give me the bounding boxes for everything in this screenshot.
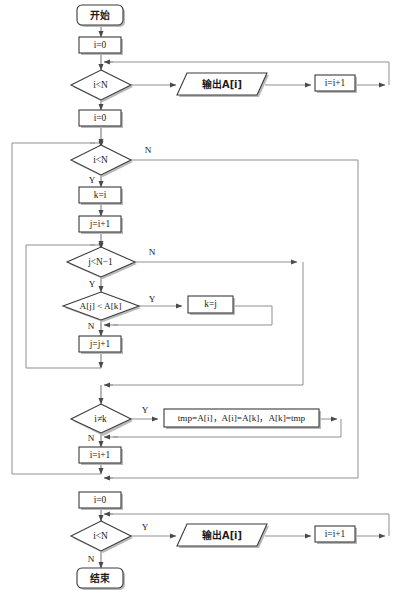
node-init-i-print2[interactable]: i=0	[79, 492, 123, 510]
node-cond-outer-label: i<N	[93, 155, 108, 165]
node-inc-i-print1[interactable]: i=i+1	[315, 75, 357, 93]
node-print1[interactable]: 输出A[i]	[177, 73, 269, 97]
node-cond-outer[interactable]: i<N	[71, 145, 133, 177]
node-inc-i-print2[interactable]: i=i+1	[315, 526, 357, 544]
node-init-i-print1-label: i=0	[94, 40, 107, 50]
branch-label-swap-no: N	[88, 433, 95, 443]
flowchart-canvas: 开始 i=0 i<N 输出A[i] i=i+1	[0, 0, 402, 605]
branch-label-inner-no: N	[149, 247, 156, 257]
node-print1-label: 输出A[i]	[202, 78, 242, 90]
branch-label-print2-no: N	[88, 554, 95, 564]
edge-outer-no-to-print2	[107, 160, 358, 478]
flowchart-svg: 开始 i=0 i<N 输出A[i] i=i+1	[0, 0, 402, 605]
node-set-k-j-label: k=j	[204, 299, 217, 309]
node-set-k-label: k=i	[94, 190, 107, 200]
node-inc-i-print2-label: i=i+1	[325, 529, 346, 539]
node-start[interactable]: 开始	[77, 5, 125, 27]
node-cond-inner[interactable]: j<N−1	[67, 247, 137, 279]
node-set-k[interactable]: k=i	[79, 187, 123, 205]
node-cond-swap-label: i≠k	[94, 414, 107, 424]
node-set-k-j[interactable]: k=j	[188, 296, 235, 315]
node-cond-print1-label: i<N	[93, 80, 108, 90]
branch-label-swap-yes: Y	[142, 405, 149, 415]
node-init-j[interactable]: j=i+1	[79, 216, 123, 234]
branch-label-inner-yes: Y	[89, 279, 96, 289]
node-init-i-print2-label: i=0	[94, 495, 107, 505]
node-inc-i-sort-label: i=i+1	[90, 450, 111, 460]
node-cond-compare-label: A[j] < A[k]	[80, 301, 122, 311]
branch-label-compare-yes: Y	[149, 294, 156, 304]
node-init-j-label: j=i+1	[89, 219, 111, 229]
node-cond-print2[interactable]: i<N	[71, 521, 133, 553]
node-print2[interactable]: 输出A[i]	[177, 524, 269, 548]
branch-label-print2-yes: Y	[142, 522, 149, 532]
node-inc-i-sort[interactable]: i=i+1	[79, 447, 123, 465]
node-swap-label: tmp=A[i]，A[i]=A[k]，A[k]=tmp	[178, 413, 306, 423]
node-init-i-sort-label: i=0	[94, 113, 107, 123]
branch-label-compare-no: N	[88, 321, 95, 331]
branch-label-outer-no: N	[145, 145, 152, 155]
node-cond-swap[interactable]: i≠k	[71, 404, 133, 436]
node-cond-print1[interactable]: i<N	[71, 70, 133, 102]
node-cond-print2-label: i<N	[93, 531, 108, 541]
node-start-label: 开始	[90, 9, 110, 21]
node-init-i-print1[interactable]: i=0	[79, 37, 123, 55]
node-cond-inner-label: j<N−1	[87, 257, 113, 267]
node-inc-j-label: j=j+1	[89, 339, 111, 349]
edge-inner-no-down	[107, 262, 303, 385]
node-inc-i-print1-label: i=i+1	[325, 78, 346, 88]
node-inc-j[interactable]: j=j+1	[79, 336, 123, 354]
node-swap[interactable]: tmp=A[i]，A[i]=A[k]，A[k]=tmp	[164, 409, 321, 429]
node-end[interactable]: 结束	[77, 568, 125, 590]
node-print2-label: 输出A[i]	[202, 529, 242, 541]
branch-label-outer-yes: Y	[89, 175, 96, 185]
node-init-i-sort[interactable]: i=0	[79, 110, 123, 128]
node-end-label: 结束	[90, 572, 110, 584]
node-cond-compare[interactable]: A[j] < A[k]	[63, 292, 141, 322]
